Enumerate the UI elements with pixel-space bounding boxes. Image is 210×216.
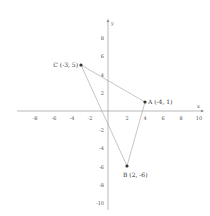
point-b: [125, 164, 128, 167]
point-a: [143, 100, 146, 103]
y-tick-label: -8: [99, 182, 104, 188]
x-tick-label: 2: [125, 115, 128, 121]
x-axis-arrow-icon: [201, 110, 204, 113]
x-axis-label: x: [197, 103, 200, 109]
y-tick-label: 8: [101, 35, 104, 41]
y-tick-label: -4: [99, 145, 104, 151]
x-tick-label: -2: [88, 115, 93, 121]
y-tick-label: -2: [99, 127, 104, 133]
x-tick-label: 10: [196, 115, 202, 121]
point-b-label: B (2, -6): [123, 171, 147, 178]
x-tick-label: 8: [179, 115, 182, 121]
y-tick-label: 2: [101, 90, 104, 96]
coordinate-plane: x y -8 -6 -4 -2 2 4 6 8 10 8 6 4 2 -2 -4…: [0, 0, 210, 216]
point-a-label: A (-4, 1): [147, 98, 172, 105]
y-axis-arrow-icon: [107, 19, 110, 22]
point-c: [79, 63, 82, 66]
y-tick-label: 6: [101, 53, 104, 59]
x-tick-label: -8: [33, 115, 38, 121]
y-tick-label: -6: [99, 164, 104, 170]
edge-ca: [81, 65, 145, 102]
x-tick-label: 6: [161, 115, 164, 121]
x-tick-label: -4: [70, 115, 75, 121]
y-tick-label: -10: [96, 200, 104, 206]
point-c-label: C (-3, 5): [53, 61, 78, 68]
y-axis-label: y: [110, 20, 114, 27]
edge-ab: [127, 102, 145, 166]
x-tick-label: -6: [52, 115, 57, 121]
x-tick-label: 4: [143, 115, 146, 121]
